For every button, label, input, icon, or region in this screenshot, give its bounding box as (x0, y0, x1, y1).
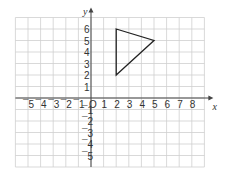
y-tick-label: ¯3 (81, 128, 94, 139)
y-tick-label: ¯5 (81, 151, 94, 162)
y-axis-arrow-icon (89, 8, 94, 13)
x-tick-label: 4 (139, 99, 145, 110)
y-tick-label: 3 (84, 59, 90, 70)
y-tick-label: ¯2 (81, 116, 94, 127)
x-tick-label: 1 (102, 99, 108, 110)
x-tick-label: ¯3 (47, 99, 60, 110)
y-tick-label: 4 (84, 47, 90, 58)
x-tick-label: 2 (114, 99, 120, 110)
coordinate-grid: xy¯5¯4¯3¯2¯1O12345678654321¯1¯2¯3¯4¯5 (0, 0, 225, 176)
x-tick-label: 3 (127, 99, 133, 110)
x-tick-label: 6 (165, 99, 171, 110)
x-axis-arrow-icon (208, 96, 213, 101)
y-tick-label: ¯4 (81, 139, 94, 150)
y-tick-label: ¯1 (81, 105, 94, 116)
x-tick-label: 5 (152, 99, 158, 110)
y-tick-label: 1 (84, 82, 90, 93)
x-tick-label: ¯4 (35, 99, 48, 110)
x-axis-label: x (211, 101, 217, 112)
y-tick-label: 2 (84, 70, 90, 81)
x-tick-label: 7 (177, 99, 183, 110)
x-tick-label: ¯5 (22, 99, 35, 110)
x-tick-label: 8 (190, 99, 196, 110)
y-tick-label: 6 (84, 24, 90, 35)
y-axis-label: y (82, 6, 88, 17)
y-tick-label: 5 (84, 36, 90, 47)
x-tick-label: ¯2 (60, 99, 73, 110)
